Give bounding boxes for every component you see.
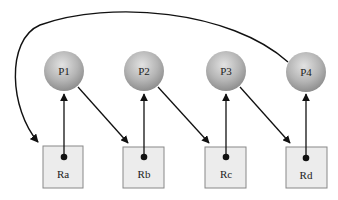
resource-rd-instance-dot bbox=[303, 155, 310, 162]
process-p4-label: P4 bbox=[300, 66, 312, 78]
process-p3-label: P3 bbox=[220, 65, 232, 77]
resource-allocation-graph: Ra Rb Rc Rd P1 P2 P3 P4 bbox=[0, 0, 338, 200]
resource-rb-instance-dot bbox=[141, 154, 148, 161]
process-p2-label: P2 bbox=[138, 65, 150, 77]
process-p1-label: P1 bbox=[58, 65, 70, 77]
edge-p3-to-rd bbox=[240, 87, 290, 143]
process-p2[interactable]: P2 bbox=[124, 51, 164, 91]
resource-rd-label: Rd bbox=[300, 169, 313, 181]
resource-ra[interactable]: Ra bbox=[43, 146, 83, 188]
resource-ra-instance-dot bbox=[61, 154, 68, 161]
edge-p2-to-rc bbox=[158, 87, 209, 143]
resource-rc-label: Rc bbox=[220, 168, 232, 180]
resource-rc-instance-dot bbox=[223, 154, 230, 161]
resource-rb-label: Rb bbox=[138, 168, 151, 180]
process-p4[interactable]: P4 bbox=[286, 52, 326, 92]
resource-ra-label: Ra bbox=[57, 168, 69, 180]
edge-p1-to-rb bbox=[78, 87, 128, 143]
process-p3[interactable]: P3 bbox=[206, 51, 246, 91]
process-p1[interactable]: P1 bbox=[44, 51, 84, 91]
